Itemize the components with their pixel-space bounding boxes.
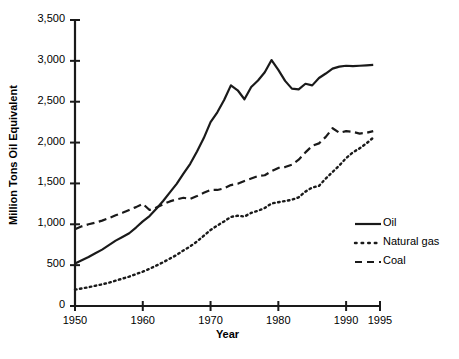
axes [70, 20, 380, 311]
legend-label-natural-gas: Natural gas [383, 235, 439, 247]
line-chart-canvas [0, 0, 459, 359]
x-tick-label: 1995 [357, 314, 403, 326]
y-tick-label: 0 [17, 298, 65, 310]
data-series-group [75, 60, 373, 290]
y-tick-label: 2,000 [17, 135, 65, 147]
y-tick-label: 2,500 [17, 94, 65, 106]
series-line-natural-gas [75, 138, 373, 290]
x-tick-label: 1960 [120, 314, 166, 326]
y-tick-label: 3,000 [17, 53, 65, 65]
series-line-coal [75, 128, 373, 229]
legend-label-coal: Coal [383, 254, 406, 266]
chart-figure: Million Tons Oil Equivalent Year 05001,0… [0, 0, 459, 359]
x-tick-label: 1970 [188, 314, 234, 326]
y-tick-label: 1,500 [17, 175, 65, 187]
legend-swatches [355, 224, 381, 262]
x-axis-title: Year [75, 328, 380, 340]
y-tick-label: 1,000 [17, 216, 65, 228]
y-tick-label: 500 [17, 257, 65, 269]
x-tick-label: 1950 [52, 314, 98, 326]
y-tick-label: 3,500 [17, 12, 65, 24]
series-line-oil [75, 60, 373, 263]
y-axis-title: Million Tons Oil Equivalent [7, 85, 19, 225]
legend-label-oil: Oil [383, 216, 396, 228]
x-tick-label: 1980 [255, 314, 301, 326]
